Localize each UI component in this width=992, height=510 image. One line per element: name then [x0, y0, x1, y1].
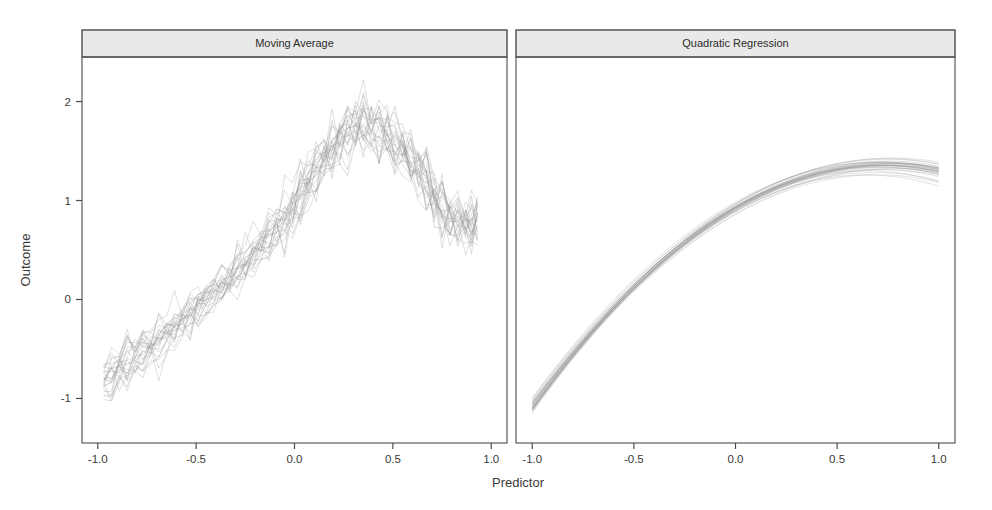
strip-label-moving-average: Moving Average [255, 37, 334, 49]
ytick-label: 1 [65, 195, 71, 207]
ytick-label: 2 [65, 96, 71, 108]
xaxis-title: Predictor [492, 475, 545, 490]
xtick-label: -0.5 [186, 453, 206, 465]
xtick-label: -1.0 [522, 453, 542, 465]
xtick-label: 0.0 [728, 453, 744, 465]
xtick-label: 0.5 [829, 453, 845, 465]
xtick-label: 1.0 [931, 453, 947, 465]
ytick-label: -1 [61, 392, 71, 404]
xtick-label: 1.0 [483, 453, 499, 465]
xtick-label: -0.5 [624, 453, 644, 465]
yaxis-title: Outcome [18, 234, 33, 287]
trellis-figure: Moving Average -1.0-0.50.00.51.0 -1012 Q… [0, 0, 992, 510]
strip-label-quadratic-regression: Quadratic Regression [682, 37, 788, 49]
ytick-label: 0 [65, 293, 71, 305]
xtick-label: 0.0 [287, 453, 303, 465]
figure-background [0, 0, 992, 510]
plot-svg: Moving Average -1.0-0.50.00.51.0 -1012 Q… [0, 0, 992, 510]
xtick-label: -1.0 [88, 453, 108, 465]
xtick-label: 0.5 [385, 453, 401, 465]
